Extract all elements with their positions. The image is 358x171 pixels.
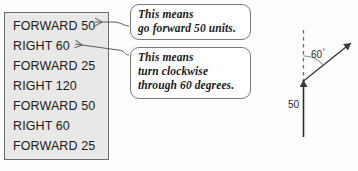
command-line: FORWARD 50: [13, 99, 95, 113]
command-line: RIGHT 60: [13, 39, 70, 53]
angle-value: 60: [311, 49, 322, 60]
callout-right-line: turn clockwise: [138, 65, 208, 77]
callout-forward-line: go forward 50 units.: [138, 22, 236, 34]
angle-label: 60°: [311, 48, 325, 60]
command-line: FORWARD 25: [13, 139, 95, 153]
command-line: FORWARD 25: [13, 59, 95, 73]
figure-canvas: FORWARD 50 RIGHT 60 FORWARD 25 RIGHT 120…: [0, 0, 358, 171]
degree-symbol-icon: °: [322, 48, 325, 55]
callout-right-line: through 60 degrees.: [138, 79, 234, 91]
command-line: RIGHT 120: [13, 79, 77, 93]
callout-forward-line: This means: [138, 8, 194, 20]
command-line: RIGHT 60: [13, 119, 70, 133]
command-line: FORWARD 50: [13, 19, 95, 33]
callout-right-line: This means: [138, 51, 194, 63]
logo-command-list: FORWARD 50 RIGHT 60 FORWARD 25 RIGHT 120…: [4, 12, 109, 160]
callout-right: This means turn clockwise through 60 deg…: [130, 47, 251, 99]
callout-forward: This means go forward 50 units.: [130, 4, 251, 40]
distance-label: 50: [288, 99, 299, 110]
